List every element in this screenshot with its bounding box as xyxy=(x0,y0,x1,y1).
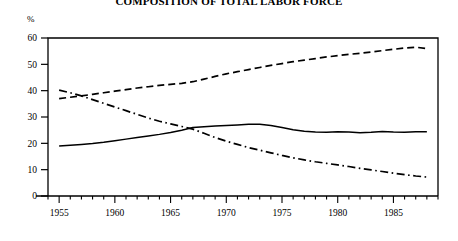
chart-plot-area: 0102030405060 19551960196519701975198019… xyxy=(0,0,458,241)
x-tick-label: 1965 xyxy=(161,208,180,218)
x-tick-label: 1970 xyxy=(217,208,236,218)
y-tick-label: 0 xyxy=(32,191,37,201)
y-tick-label: 60 xyxy=(28,33,38,43)
y-tick-label: 40 xyxy=(28,86,38,96)
x-tick-label: 1985 xyxy=(384,208,403,218)
x-tick-label: 1975 xyxy=(273,208,292,218)
x-tick-label: 1980 xyxy=(328,208,347,218)
y-axis-ticks: 0102030405060 xyxy=(28,33,49,201)
y-tick-label: 30 xyxy=(28,112,38,122)
y-tick-label: 20 xyxy=(28,139,38,149)
series-layer xyxy=(59,47,427,177)
axis-frame xyxy=(36,38,438,196)
series-solid xyxy=(59,124,427,146)
series-dashed xyxy=(59,47,427,98)
y-tick-label: 10 xyxy=(28,165,38,175)
chart-figure: COMPOSITION OF TOTAL LABOR FORCE % 01020… xyxy=(0,0,458,241)
series-dash-dot xyxy=(59,90,427,177)
x-tick-label: 1960 xyxy=(105,208,124,218)
x-axis-ticks: 1955196019651970197519801985 xyxy=(48,196,438,218)
y-tick-label: 50 xyxy=(28,60,38,70)
x-tick-label: 1955 xyxy=(50,208,69,218)
